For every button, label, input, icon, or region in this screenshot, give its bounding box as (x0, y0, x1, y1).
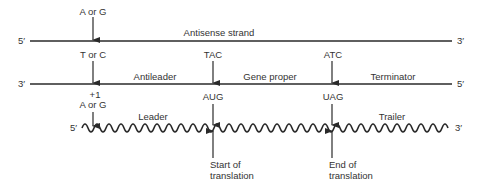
terminator-region-label: Terminator (371, 71, 416, 82)
gene-proper-region-label: Gene proper (243, 71, 296, 82)
end-translation-note-line2: translation (329, 170, 373, 181)
mrna-3prime-label: 3′ (455, 122, 462, 133)
start-translation-note-line1: Start of (210, 159, 241, 170)
start-translation-note-line2: translation (210, 170, 254, 181)
leader-region-label: Leader (138, 111, 168, 122)
sense-5prime-label: 5′ (457, 78, 464, 89)
stop-codon-mrna: UAG (323, 91, 344, 102)
antisense-strand-label: Antisense strand (184, 27, 255, 38)
antileader-region-label: Antileader (134, 71, 177, 82)
start-site-middle-base: T or C (80, 49, 106, 60)
antisense-3prime-label: 3′ (457, 35, 464, 46)
antisense-5prime-label: 5′ (18, 35, 25, 46)
start-site-top-base: A or G (80, 6, 107, 17)
start-site-mrna-base: A or G (80, 99, 107, 110)
mrna-5prime-label: 5′ (70, 122, 77, 133)
sense-3prime-label: 3′ (18, 78, 25, 89)
stop-codon-dna: ATC (324, 49, 342, 60)
start-codon-mrna: AUG (203, 91, 224, 102)
mrna-wavy-line (82, 124, 448, 132)
trailer-region-label: Trailer (379, 111, 406, 122)
end-translation-note-line1: End of (329, 159, 356, 170)
start-codon-dna: TAC (204, 49, 222, 60)
